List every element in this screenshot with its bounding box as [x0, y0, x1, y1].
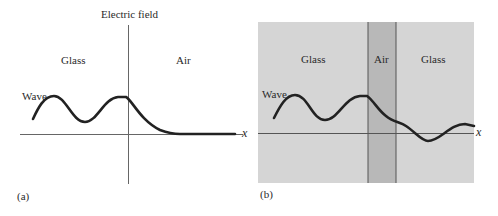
- panel-a-region-glass: Glass: [61, 54, 85, 66]
- panel-a-x-axis-label: x: [242, 126, 247, 141]
- diagram-canvas: [0, 0, 498, 216]
- panel-b: [258, 22, 474, 183]
- panel-a: [20, 25, 243, 184]
- panel-b-region-air: Air: [374, 53, 389, 65]
- panel-a-y-axis-label: Electric field: [101, 8, 158, 20]
- panel-b-region-glass-left: Glass: [301, 53, 325, 65]
- panel-a-region-air: Air: [176, 54, 191, 66]
- panel-b-caption: (b): [260, 188, 273, 200]
- panel-a-wave: [33, 96, 235, 134]
- panel-b-wave-label: Wave: [262, 88, 287, 100]
- panel-b-x-axis-label: x: [476, 125, 481, 140]
- panel-b-glass-right: [396, 22, 474, 183]
- panel-a-wave-label: Wave: [22, 90, 47, 102]
- panel-b-region-glass-right: Glass: [421, 53, 445, 65]
- panel-b-glass-left: [258, 22, 368, 183]
- panel-a-caption: (a): [17, 190, 29, 202]
